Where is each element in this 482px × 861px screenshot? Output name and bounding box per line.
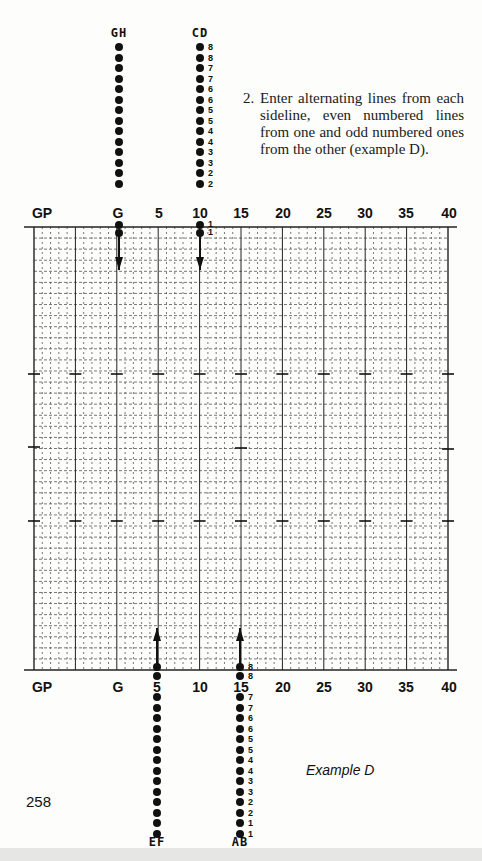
top-axis-label: G <box>113 206 124 220</box>
player-dot <box>153 704 161 712</box>
player-dot <box>115 169 123 177</box>
player-dot <box>115 180 123 188</box>
line-number: 4 <box>208 127 213 136</box>
player-dot <box>153 767 161 775</box>
line-number: 8 <box>208 53 213 62</box>
line-number: 3 <box>208 158 213 167</box>
player-dot <box>153 788 161 796</box>
player-dot <box>153 735 161 743</box>
player-dot <box>196 64 204 72</box>
player-dot <box>196 54 204 62</box>
player-dot <box>153 819 161 827</box>
player-dot <box>115 54 123 62</box>
bottom-axis-label: 40 <box>441 680 457 694</box>
player-dot <box>196 75 204 83</box>
player-dot <box>196 127 204 135</box>
top-axis-label: GP <box>32 206 52 220</box>
bottom-axis-label: 5 <box>153 680 161 694</box>
arrow-ab-head <box>236 628 244 641</box>
player-dot <box>153 798 161 806</box>
player-dot <box>236 693 244 701</box>
player-dot <box>236 672 244 680</box>
top-axis-label: 20 <box>275 206 291 220</box>
player-dot <box>236 798 244 806</box>
line-number: 2 <box>248 798 253 807</box>
line-number: 1 <box>248 829 253 838</box>
bottom-axis-label: 20 <box>275 680 291 694</box>
instruction-paragraph: 2. Enter alternating lines from each sid… <box>243 90 464 158</box>
line-number: 3 <box>248 787 253 796</box>
bottom-axis-label: 25 <box>316 680 332 694</box>
player-dot <box>196 106 204 114</box>
player-dot <box>115 138 123 146</box>
player-dot <box>196 221 204 229</box>
player-dot <box>236 714 244 722</box>
arrow-cd-head <box>196 257 204 270</box>
line-number: 5 <box>248 735 253 744</box>
player-dot <box>115 106 123 114</box>
player-dot <box>115 117 123 125</box>
player-dot <box>236 704 244 712</box>
line-number: 7 <box>208 64 213 73</box>
line-number: 1 <box>248 819 253 828</box>
player-dot <box>196 229 204 237</box>
line-number: 7 <box>248 693 253 702</box>
page-edge-shadow <box>0 848 482 861</box>
line-number: 5 <box>208 116 213 125</box>
line-number: 2 <box>248 808 253 817</box>
line-number: 7 <box>248 703 253 712</box>
player-dot <box>153 693 161 701</box>
top-axis-label: 30 <box>357 206 373 220</box>
line-number: 7 <box>208 74 213 83</box>
player-dot <box>153 809 161 817</box>
player-dot <box>236 735 244 743</box>
sideline-label-gh: GH <box>111 27 127 39</box>
top-axis-label: 15 <box>233 206 249 220</box>
instruction-number: 2. <box>243 90 254 107</box>
player-dot <box>153 663 161 671</box>
line-number: 3 <box>208 148 213 157</box>
top-axis-label: 10 <box>192 206 208 220</box>
player-dot <box>236 756 244 764</box>
player-dot <box>115 148 123 156</box>
sideline-label-ef: EF <box>149 836 165 848</box>
player-dot <box>115 75 123 83</box>
line-number: 4 <box>248 756 253 765</box>
sideline-label-ab: AB <box>232 836 248 848</box>
player-dot <box>236 725 244 733</box>
player-dot <box>196 169 204 177</box>
player-dot <box>236 809 244 817</box>
player-dot <box>153 746 161 754</box>
top-axis-label: 35 <box>398 206 414 220</box>
player-dot <box>115 229 123 237</box>
player-dot <box>236 830 244 838</box>
player-dot <box>196 180 204 188</box>
line-number: 8 <box>248 672 253 681</box>
player-dot <box>196 96 204 104</box>
player-dot <box>115 96 123 104</box>
arrow-ef-head <box>153 628 161 641</box>
bottom-axis-label: G <box>113 680 124 694</box>
player-dot <box>153 725 161 733</box>
player-dot <box>115 127 123 135</box>
player-dot <box>236 777 244 785</box>
line-number: 3 <box>248 777 253 786</box>
top-axis-label: 25 <box>316 206 332 220</box>
player-dot <box>196 138 204 146</box>
player-dot <box>236 819 244 827</box>
line-number: 4 <box>208 137 213 146</box>
player-dot <box>196 159 204 167</box>
line-number: 4 <box>248 766 253 775</box>
player-dot <box>236 663 244 671</box>
player-dot <box>196 148 204 156</box>
line-number: 6 <box>208 95 213 104</box>
bottom-axis-label: 10 <box>192 680 208 694</box>
player-dot <box>115 159 123 167</box>
line-number: 2 <box>208 179 213 188</box>
arrow-gh-head <box>115 257 123 270</box>
top-axis-label: 5 <box>155 206 163 220</box>
player-dot <box>153 672 161 680</box>
player-dot <box>236 767 244 775</box>
line-number: 6 <box>248 724 253 733</box>
top-axis-label: 40 <box>441 206 457 220</box>
